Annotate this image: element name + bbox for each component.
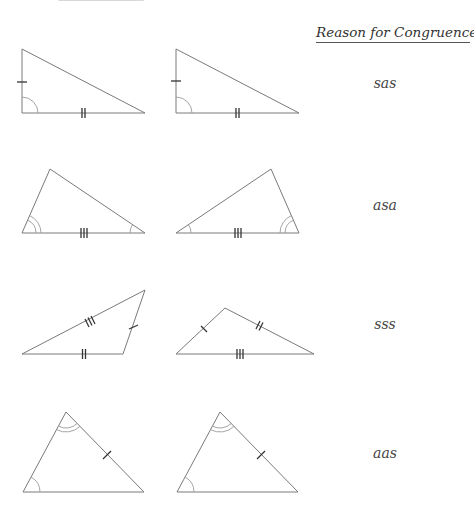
triangle-sss-left	[22, 290, 145, 359]
triangle-aas-right	[177, 412, 298, 492]
triangle-sas-right	[171, 49, 299, 118]
triangle-aas-left	[23, 412, 144, 492]
triangle-sas-left	[17, 49, 145, 118]
triangle-figures	[0, 0, 474, 508]
triangle-asa-left	[22, 169, 145, 238]
triangle-asa-right	[176, 169, 299, 238]
triangle-sss-right	[176, 308, 314, 359]
